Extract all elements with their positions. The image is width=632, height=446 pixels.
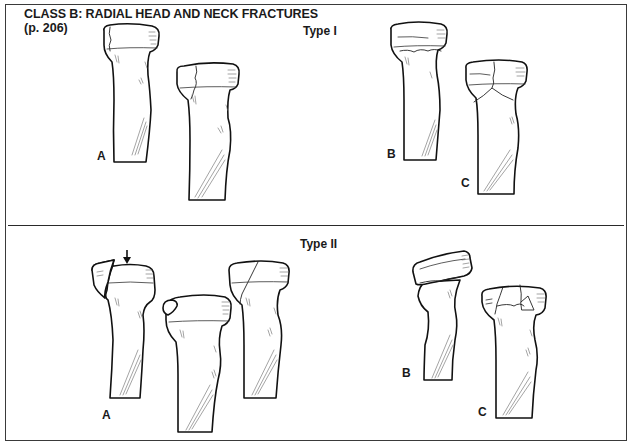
type-ii-a-bone-2: [163, 295, 231, 432]
type-ii-c-bone: [482, 285, 546, 418]
arrow-down-icon: [123, 250, 131, 264]
type-ii-a-bone-3: [229, 261, 289, 398]
type-i-a-bone-1: [104, 24, 159, 162]
illustration-canvas: [0, 0, 632, 446]
type-ii-a-bone-1: [92, 250, 155, 398]
type-i-a-bone-2: [177, 63, 239, 200]
type-ii-b-bone: [413, 251, 472, 380]
type-i-c-bone: [466, 60, 527, 194]
type-i-b-bone: [391, 22, 447, 160]
